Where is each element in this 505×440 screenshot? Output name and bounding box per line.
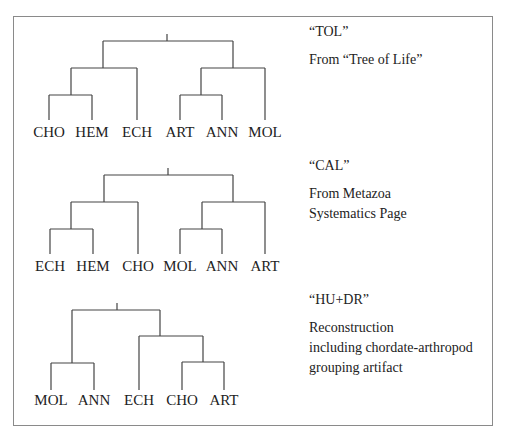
leaf-label: HEM — [75, 124, 108, 140]
tree-description-line: grouping artifact — [309, 358, 473, 378]
tree-hu-dr: MOL ANN ECH CHO ART — [34, 303, 238, 408]
leaf-label: ECH — [122, 124, 152, 140]
tree-cal: ECH HEM CHO MOL ANN ART — [35, 168, 280, 274]
caption-hu-dr: “HU+DR” Reconstruction including chordat… — [309, 290, 473, 378]
tree-description-line: Systematics Page — [309, 204, 407, 224]
leaf-label: ART — [209, 392, 238, 408]
leaf-label: MOL — [163, 258, 196, 274]
caption-tol: “TOL” From “Tree of Life” — [309, 22, 422, 70]
leaf-label: ECH — [35, 258, 65, 274]
leaf-label: ART — [250, 258, 279, 274]
tree-description-line: including chordate-arthropod — [309, 338, 473, 358]
tree-description-line: From “Tree of Life” — [309, 50, 422, 70]
leaf-label: ANN — [78, 392, 111, 408]
leaf-label: ECH — [124, 392, 154, 408]
tree-name: “CAL” — [309, 156, 407, 176]
leaf-label: ANN — [206, 124, 239, 140]
tree-tol: CHO HEM ECH ART ANN MOL — [33, 34, 282, 140]
leaf-label: CHO — [33, 124, 65, 140]
tree-name: “TOL” — [309, 22, 422, 42]
tree-description-line: From Metazoa — [309, 184, 407, 204]
leaf-label: HEM — [76, 258, 109, 274]
leaf-label: ANN — [206, 258, 239, 274]
leaf-label: CHO — [166, 392, 198, 408]
tree-name: “HU+DR” — [309, 290, 473, 310]
leaf-label: CHO — [122, 258, 154, 274]
leaf-label: MOL — [34, 392, 67, 408]
leaf-label: ART — [165, 124, 194, 140]
leaf-label: MOL — [248, 124, 281, 140]
caption-cal: “CAL” From Metazoa Systematics Page — [309, 156, 407, 224]
tree-description-line: Reconstruction — [309, 318, 473, 338]
